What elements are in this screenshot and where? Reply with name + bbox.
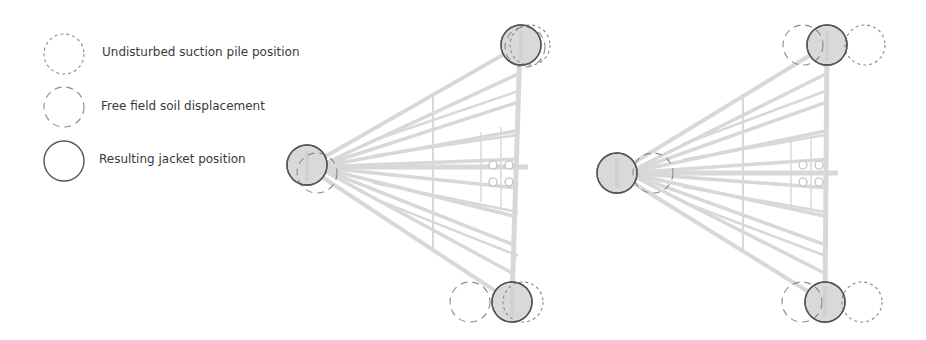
pile-top [501,25,550,67]
legend-long-dash-circle-icon [44,87,84,127]
legend-label-resulting: Resulting jacket position [99,152,246,166]
pile-top [783,25,885,65]
legend-label-undisturbed: Undisturbed suction pile position [102,45,300,59]
legend-short-dash-circle-icon [44,34,84,74]
jacket-structure [617,45,838,302]
undisturbed-pile-position-circle [845,25,885,65]
legend-symbols [44,34,84,181]
legend-label-free-field: Free field soil displacement [101,99,265,113]
undisturbed-pile-position-circle [842,282,882,322]
pile-bottom [782,282,882,322]
legend-solid-circle-icon [44,141,84,181]
jacket-structure [307,45,528,302]
pile-bottom [450,282,543,322]
right-jacket-diagram [597,25,885,322]
free-field-displacement-circle [450,282,490,322]
left-jacket-diagram [287,25,550,322]
